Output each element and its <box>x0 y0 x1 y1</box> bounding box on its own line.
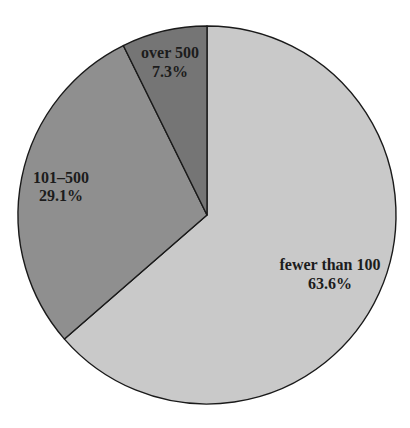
slice-label-over-500-pct: 7.3% <box>152 63 188 80</box>
slice-label-101-500-pct: 29.1% <box>39 187 83 204</box>
slice-label-fewer-than-100-pct: 63.6% <box>308 275 352 292</box>
slice-label-101-500-name: 101–500 <box>33 169 89 186</box>
slice-label-fewer-than-100-name: fewer than 100 <box>279 256 380 273</box>
slice-label-over-500-name: over 500 <box>141 44 199 61</box>
pie-slices <box>18 26 396 404</box>
pie-chart: fewer than 100 63.6% 101–500 29.1% over … <box>0 0 410 428</box>
